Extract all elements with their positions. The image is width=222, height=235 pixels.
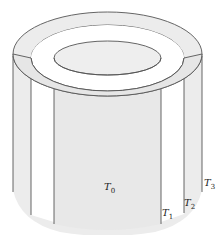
top-rims xyxy=(13,12,202,96)
concentric-cylinders-diagram: T0 T1 T2 T3 xyxy=(0,0,222,235)
label-t3: T3 xyxy=(204,177,215,191)
